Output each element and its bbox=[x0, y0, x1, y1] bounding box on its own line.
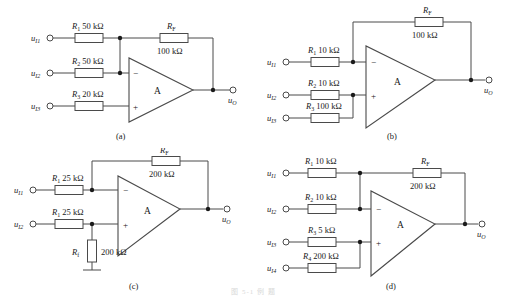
figure-page: uI1 uI2 uI3 R1 50 kΩ R2 50 kΩ R3 20 kΩ R… bbox=[0, 0, 507, 297]
input-terminal-d1[interactable] bbox=[283, 170, 289, 176]
input-label-c1: uI1 bbox=[14, 185, 23, 196]
input-label-b2: uI2 bbox=[267, 90, 276, 101]
resistor-label-d-r2: R2 10 kΩ bbox=[304, 192, 337, 203]
input-terminal-c1[interactable] bbox=[30, 187, 36, 193]
resistor-d-r2 bbox=[308, 205, 336, 214]
junction-a-2 bbox=[118, 71, 122, 75]
output-terminal-b[interactable] bbox=[486, 77, 492, 83]
noninverting-input-c: + bbox=[123, 220, 128, 230]
resistor-value-d-rf: 200 kΩ bbox=[410, 181, 435, 191]
junction-d-1 bbox=[358, 171, 362, 175]
output-label-c: uO bbox=[222, 214, 231, 225]
resistor-d-r3 bbox=[308, 238, 336, 247]
junction-a-1 bbox=[118, 36, 122, 40]
opamp-label-a: A bbox=[154, 86, 161, 96]
input-terminal-a1[interactable] bbox=[47, 35, 53, 41]
resistor-a-rf bbox=[160, 34, 188, 43]
input-label-c2: uI2 bbox=[14, 219, 23, 230]
resistor-label-b-r3: R3 100 kΩ bbox=[305, 101, 342, 112]
resistor-label-c-r2: R1 25 kΩ bbox=[51, 207, 84, 218]
resistor-value-c-shunt: 200 kΩ bbox=[101, 247, 126, 257]
output-terminal-c[interactable] bbox=[224, 206, 230, 212]
resistor-b-rf bbox=[415, 18, 443, 27]
input-label-d1: uI1 bbox=[267, 168, 276, 179]
opamp-label-d: A bbox=[397, 220, 404, 230]
input-terminal-a2[interactable] bbox=[47, 70, 53, 76]
input-label-b1: uI1 bbox=[267, 57, 276, 68]
junction-d-4 bbox=[463, 222, 467, 226]
junction-c-2 bbox=[90, 222, 94, 226]
resistor-c-rf bbox=[152, 157, 180, 166]
noninverting-input-b: + bbox=[371, 91, 376, 101]
resistor-value-c-rf: 200 kΩ bbox=[149, 169, 174, 179]
resistor-value-a-rf: 100 kΩ bbox=[157, 46, 182, 56]
noninverting-input-d: + bbox=[376, 238, 381, 248]
input-label-d3: uI3 bbox=[267, 237, 276, 248]
subfigure-d: uI1 uI2 uI3 uI4 R1 10 kΩ R2 10 kΩ R3 5 k… bbox=[253, 148, 506, 296]
resistor-label-c-rf: RF bbox=[159, 148, 169, 156]
input-terminal-d4[interactable] bbox=[283, 265, 289, 271]
resistor-b-r3 bbox=[311, 114, 339, 123]
resistor-d-r1 bbox=[308, 169, 336, 178]
opamp-label-c: A bbox=[144, 206, 151, 216]
figure-bottom-caption: 图 5-1 例 题 bbox=[0, 286, 507, 296]
resistor-label-a-r2: R2 50 kΩ bbox=[71, 56, 104, 67]
input-terminal-d3[interactable] bbox=[283, 239, 289, 245]
output-terminal-a[interactable] bbox=[230, 87, 236, 93]
resistor-label-b-r1: R1 10 kΩ bbox=[307, 45, 340, 56]
resistor-b-r2 bbox=[311, 91, 339, 100]
resistor-c-r1 bbox=[55, 186, 83, 195]
resistor-label-c-r1: R1 25 kΩ bbox=[51, 173, 84, 184]
resistor-label-b-r2: R2 10 kΩ bbox=[307, 78, 340, 89]
input-terminal-d2[interactable] bbox=[283, 206, 289, 212]
junction-d-2 bbox=[358, 207, 362, 211]
resistor-label-a-rf: RF bbox=[166, 21, 176, 32]
resistor-d-r4 bbox=[308, 264, 336, 273]
inverting-input-d: − bbox=[376, 204, 381, 214]
subfigure-a: uI1 uI2 uI3 R1 50 kΩ R2 50 kΩ R3 20 kΩ R… bbox=[0, 0, 253, 148]
inverting-input-b: − bbox=[371, 57, 376, 67]
opamp-b bbox=[366, 46, 435, 128]
resistor-a-r3 bbox=[75, 102, 103, 111]
input-label-b3: uI3 bbox=[267, 113, 276, 124]
resistor-label-a-r3: R3 20 kΩ bbox=[71, 89, 104, 100]
caption-a: (a) bbox=[116, 131, 126, 141]
input-terminal-b1[interactable] bbox=[283, 59, 289, 65]
opamp-label-b: A bbox=[394, 77, 401, 87]
output-terminal-d[interactable] bbox=[479, 221, 485, 227]
junction-b-1 bbox=[351, 60, 355, 64]
junction-d-3 bbox=[358, 240, 362, 244]
resistor-b-r1 bbox=[311, 58, 339, 67]
output-label-b: uO bbox=[484, 85, 493, 96]
resistor-d-rf bbox=[413, 169, 441, 178]
input-terminal-b3[interactable] bbox=[283, 115, 289, 121]
resistor-a-r2 bbox=[75, 69, 103, 78]
resistor-c-shunt bbox=[88, 240, 97, 262]
subfigure-c: uI1 uI2 R1 25 kΩ R1 25 kΩ Rf 200 kΩ RF 2… bbox=[0, 148, 253, 296]
junction-b-2 bbox=[351, 93, 355, 97]
input-label-a3: uI3 bbox=[31, 101, 40, 112]
input-label-a1: uI1 bbox=[31, 33, 40, 44]
resistor-label-c-shunt: Rf bbox=[71, 247, 79, 258]
junction-b-3 bbox=[469, 78, 473, 82]
resistor-label-d-r1: R1 10 kΩ bbox=[304, 156, 337, 167]
input-label-d2: uI2 bbox=[267, 204, 276, 215]
noninverting-input-a: + bbox=[133, 102, 138, 112]
resistor-label-d-r4: R4 200 kΩ bbox=[302, 251, 339, 262]
input-terminal-b2[interactable] bbox=[283, 92, 289, 98]
input-label-d4: uI4 bbox=[267, 263, 276, 274]
subfigure-b: uI1 uI2 uI3 R1 10 kΩ R2 10 kΩ R3 100 kΩ … bbox=[253, 0, 506, 148]
junction-a-3 bbox=[211, 88, 215, 92]
output-label-d: uO bbox=[477, 229, 486, 240]
input-terminal-c2[interactable] bbox=[30, 221, 36, 227]
inverting-input-a: − bbox=[133, 68, 138, 78]
resistor-label-a-r1: R1 50 kΩ bbox=[71, 21, 104, 32]
input-terminal-a3[interactable] bbox=[47, 103, 53, 109]
junction-c-3 bbox=[206, 207, 210, 211]
output-label-a: uO bbox=[228, 95, 237, 106]
resistor-label-d-r3: R3 5 kΩ bbox=[307, 225, 335, 236]
inverting-input-c: − bbox=[123, 185, 128, 195]
opamp-a bbox=[129, 58, 193, 122]
resistor-label-b-rf: RF bbox=[422, 5, 432, 16]
resistor-c-r2 bbox=[55, 220, 83, 229]
